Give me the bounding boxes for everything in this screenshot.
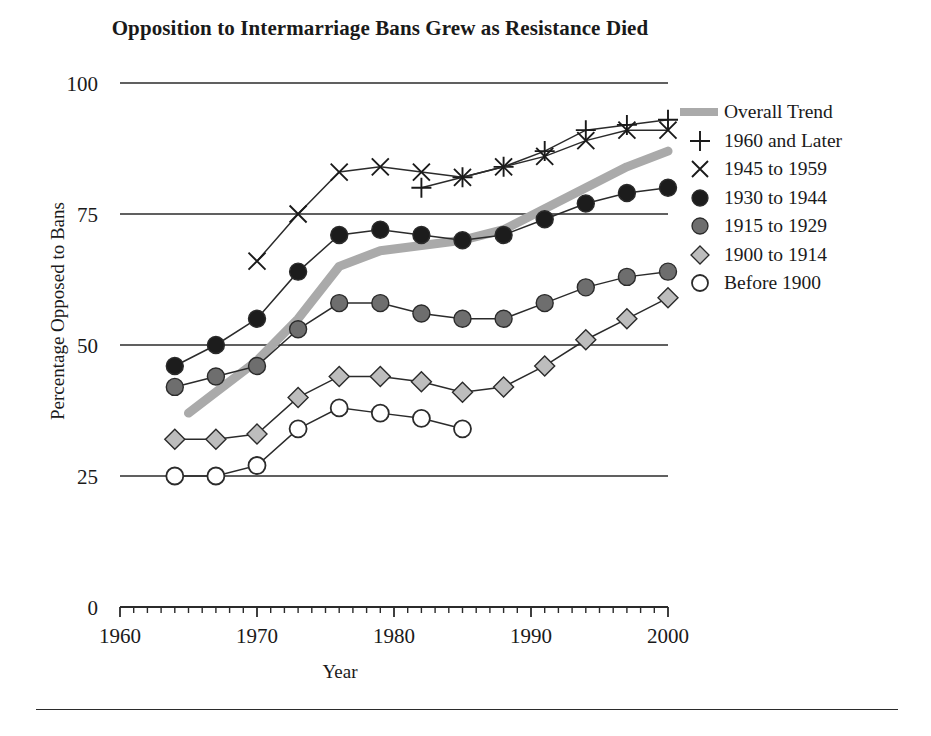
legend-item[interactable]: 1960 and Later xyxy=(676,127,926,156)
data-point-marker xyxy=(290,321,307,338)
x-tick-label: 1970 xyxy=(236,624,278,648)
data-point-marker xyxy=(370,366,390,386)
plus-icon xyxy=(676,127,720,155)
legend-item[interactable]: 1900 to 1914 xyxy=(676,241,926,270)
data-point-marker xyxy=(331,164,348,181)
data-point-marker xyxy=(495,310,512,327)
data-point-marker xyxy=(577,195,594,212)
open-circle-icon xyxy=(676,269,720,297)
data-point-marker xyxy=(372,405,389,422)
x-tick-label: 1990 xyxy=(510,624,552,648)
series-1960-and-later xyxy=(411,110,678,198)
data-point-marker xyxy=(494,377,514,397)
legend-item[interactable]: Overall Trend xyxy=(676,98,926,127)
y-tick-label: 0 xyxy=(88,596,99,620)
data-point-marker xyxy=(411,178,431,198)
data-point-marker xyxy=(536,211,553,228)
x-tick-label: 1980 xyxy=(373,624,415,648)
data-point-marker xyxy=(454,420,471,437)
x-tick-label: 2000 xyxy=(647,624,689,648)
data-point-marker xyxy=(413,410,430,427)
legend-item[interactable]: Before 1900 xyxy=(676,269,926,298)
data-point-marker xyxy=(413,226,430,243)
data-point-marker xyxy=(576,330,596,350)
data-point-marker xyxy=(207,368,224,385)
data-point-marker xyxy=(372,158,389,175)
data-point-marker xyxy=(290,420,307,437)
legend-item-label: Before 1900 xyxy=(720,272,821,294)
legend-item-label: 1900 to 1914 xyxy=(720,244,827,266)
data-point-marker xyxy=(372,295,389,312)
data-point-marker xyxy=(454,232,471,249)
legend-item-label: 1930 to 1944 xyxy=(720,187,827,209)
thick-gray-line-icon xyxy=(676,98,720,126)
light-gray-diamond-icon xyxy=(676,241,720,269)
chart-legend: Overall Trend1960 and Later1945 to 19591… xyxy=(676,98,926,298)
legend-item-label: 1915 to 1929 xyxy=(720,215,827,237)
data-point-marker xyxy=(166,357,183,374)
data-point-marker xyxy=(331,399,348,416)
data-point-marker xyxy=(660,179,677,196)
data-point-marker xyxy=(207,468,224,485)
y-tick-label: 75 xyxy=(77,203,98,227)
data-point-marker xyxy=(249,457,266,474)
data-point-marker xyxy=(166,468,183,485)
data-point-marker xyxy=(331,295,348,312)
legend-item[interactable]: 1945 to 1959 xyxy=(676,155,926,184)
x-tick-label: 1960 xyxy=(99,624,141,648)
data-point-marker xyxy=(576,120,596,140)
data-point-marker xyxy=(411,372,431,392)
data-point-marker xyxy=(577,279,594,296)
data-point-marker xyxy=(331,226,348,243)
data-point-marker xyxy=(249,253,266,270)
data-point-marker xyxy=(166,378,183,395)
y-tick-label: 25 xyxy=(77,465,98,489)
legend-item-label: Overall Trend xyxy=(720,101,833,123)
data-point-marker xyxy=(372,221,389,238)
data-point-marker xyxy=(165,429,185,449)
data-point-marker xyxy=(454,310,471,327)
legend-item[interactable]: 1915 to 1929 xyxy=(676,212,926,241)
data-point-marker xyxy=(617,309,637,329)
data-point-marker xyxy=(535,356,555,376)
data-point-marker xyxy=(618,185,635,202)
data-point-marker xyxy=(413,305,430,322)
legend-item-label: 1945 to 1959 xyxy=(720,158,827,180)
data-point-marker xyxy=(536,295,553,312)
filled-black-circle-icon xyxy=(676,184,720,212)
legend-item-label: 1960 and Later xyxy=(720,130,842,152)
data-point-marker xyxy=(658,110,678,130)
data-point-marker xyxy=(249,357,266,374)
bottom-divider xyxy=(36,709,898,710)
data-point-marker xyxy=(290,263,307,280)
data-point-marker xyxy=(329,366,349,386)
data-point-marker xyxy=(660,263,677,280)
y-tick-label: 50 xyxy=(77,334,98,358)
data-point-marker xyxy=(249,310,266,327)
y-tick-label: 100 xyxy=(67,72,99,96)
data-point-marker xyxy=(207,337,224,354)
gray-circle-icon xyxy=(676,212,720,240)
data-point-marker xyxy=(658,288,678,308)
data-point-marker xyxy=(618,268,635,285)
data-point-marker xyxy=(495,226,512,243)
legend-item[interactable]: 1930 to 1944 xyxy=(676,184,926,213)
cross-icon xyxy=(676,155,720,183)
data-point-marker xyxy=(206,429,226,449)
data-point-marker xyxy=(453,382,473,402)
